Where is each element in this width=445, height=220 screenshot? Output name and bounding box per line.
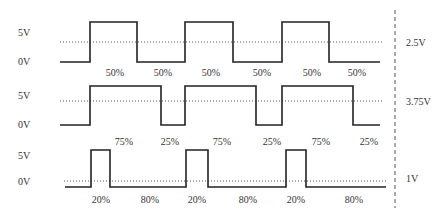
row2-low-label: 0V bbox=[18, 119, 30, 130]
row3-pct-4: 80% bbox=[239, 194, 257, 205]
row1-avg-label: 2.5V bbox=[406, 37, 426, 48]
row3-pct-6: 80% bbox=[345, 194, 363, 205]
row2-pct-1: 75% bbox=[115, 136, 133, 147]
pwm-diagram bbox=[0, 0, 445, 220]
waveform-row2 bbox=[60, 86, 380, 125]
row3-high-label: 5V bbox=[18, 150, 30, 161]
row2-pct-4: 25% bbox=[263, 136, 281, 147]
row2-pct-2: 25% bbox=[161, 136, 179, 147]
row1-high-label: 5V bbox=[18, 27, 30, 38]
row2-high-label: 5V bbox=[18, 90, 30, 101]
row1-pct-2: 50% bbox=[154, 67, 172, 78]
row2-pct-6: 25% bbox=[360, 136, 378, 147]
row1-pct-5: 50% bbox=[303, 67, 321, 78]
row3-pct-2: 80% bbox=[141, 194, 159, 205]
row3-low-label: 0V bbox=[18, 176, 30, 187]
row3-pct-5: 20% bbox=[287, 194, 305, 205]
row3-avg-label: 1V bbox=[406, 173, 418, 184]
row2-pct-5: 75% bbox=[312, 136, 330, 147]
row3-pct-1: 20% bbox=[92, 194, 110, 205]
row3-pct-3: 20% bbox=[188, 194, 206, 205]
row1-pct-1: 50% bbox=[106, 67, 124, 78]
row1-pct-3: 50% bbox=[202, 67, 220, 78]
row2-avg-label: 3.75V bbox=[406, 96, 431, 107]
row1-pct-6: 50% bbox=[348, 67, 366, 78]
row1-low-label: 0V bbox=[18, 56, 30, 67]
row1-pct-4: 50% bbox=[253, 67, 271, 78]
row2-pct-3: 75% bbox=[213, 136, 231, 147]
